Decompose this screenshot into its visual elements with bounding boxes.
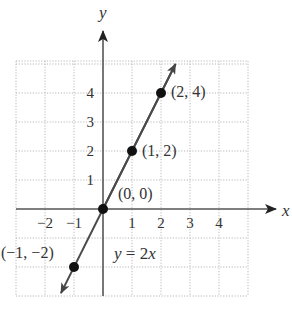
x-tick-label: 2: [157, 215, 165, 231]
x-axis-label: x: [281, 201, 290, 220]
equation-label: y = 2x: [112, 244, 156, 263]
x-tick-label: 4: [215, 215, 223, 231]
y-tick-label: 2: [87, 143, 95, 159]
y-axis-label: y: [97, 3, 107, 22]
y-tick-label: 1: [87, 172, 95, 188]
point-label: (2, 4): [171, 83, 206, 101]
point-label: (1, 2): [142, 142, 177, 160]
x-tick-label: −1: [66, 215, 82, 231]
y-tick-label: 4: [87, 85, 95, 101]
data-point: [69, 262, 79, 272]
y-tick-label: 3: [87, 114, 95, 130]
x-tick-label: 3: [186, 215, 194, 231]
x-tick-label: 1: [128, 215, 136, 231]
x-tick-label: −2: [37, 215, 53, 231]
data-point: [98, 204, 108, 214]
data-point: [156, 88, 166, 98]
coordinate-plane: xy −2−112341234 (−1, −2)(0, 0)(1, 2)(2, …: [0, 0, 292, 314]
data-point: [127, 146, 137, 156]
point-label: (−1, −2): [1, 244, 54, 262]
point-label: (0, 0): [118, 185, 153, 203]
